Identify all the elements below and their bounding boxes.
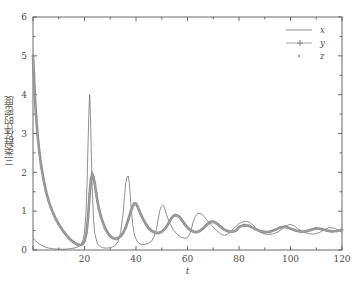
marker-dot-z [33, 74, 35, 76]
marker-dot-z [163, 229, 165, 231]
x-axis-label: t [186, 266, 190, 276]
marker-dot-z [321, 228, 323, 230]
marker-dot-z [34, 95, 36, 97]
marker-dot-z [223, 228, 225, 230]
marker-dot-z [120, 236, 122, 238]
marker-dot-z [236, 229, 238, 231]
marker-dot-z [68, 238, 70, 240]
marker-dot-z [207, 223, 209, 225]
marker-dot-z [336, 230, 338, 232]
marker-dot-z [331, 230, 333, 232]
marker-dot-z [112, 237, 114, 239]
marker-dot-z [102, 221, 104, 223]
legend-swatch-z [298, 55, 301, 58]
chart-figure: 三类群体的密度 204060801001200123456t xyz [0, 0, 356, 283]
marker-dot-z [130, 211, 132, 213]
marker-dot-z [117, 237, 119, 239]
marker-dot-z [284, 226, 286, 228]
marker-dot-z [148, 227, 150, 229]
marker-dot-z [151, 230, 153, 232]
marker-dot-z [125, 227, 127, 229]
legend-label-z: z [319, 51, 325, 61]
y-tick-label: 5 [21, 51, 27, 61]
marker-dot-z [48, 200, 50, 202]
marker-dot-z [100, 215, 102, 217]
marker-dot-z [233, 230, 235, 232]
marker-dot-z [181, 220, 183, 222]
x-tick-label: 40 [130, 254, 142, 264]
marker-dot-z [179, 217, 181, 219]
marker-dot-z [58, 224, 60, 226]
marker-dot-z [66, 235, 68, 237]
chart-legend: xyz [286, 25, 325, 61]
marker-dot-z [158, 232, 160, 234]
marker-dot-z [93, 177, 95, 179]
marker-dot-z [104, 228, 106, 230]
marker-dot-z [310, 229, 312, 231]
marker-dot-z [91, 174, 93, 176]
marker-dot-z [184, 223, 186, 225]
x-tick-label: 60 [182, 254, 194, 264]
marker-dot-z [60, 228, 62, 230]
marker-dot-z [76, 243, 78, 245]
marker-dot-z [42, 178, 44, 180]
plot-canvas: 204060801001200123456t xyz [0, 0, 356, 283]
marker-dot-z [53, 214, 55, 216]
marker-dot-z [95, 192, 97, 194]
legend-label-y: y [319, 38, 325, 48]
y-tick-label: 0 [21, 245, 27, 255]
marker-dot-z [192, 230, 194, 232]
marker-dot-z [173, 215, 175, 217]
marker-dot-z [132, 205, 134, 207]
marker-dot-z [202, 228, 204, 230]
x-tick-label: 80 [233, 254, 245, 264]
marker-dot-z [197, 231, 199, 233]
marker-dot-z [35, 116, 37, 118]
marker-dot-z [84, 241, 86, 243]
marker-dot-z [305, 230, 307, 232]
marker-dot-z [187, 227, 189, 229]
marker-dot-z [254, 228, 256, 230]
series-z [33, 57, 342, 245]
marker-dot-z [96, 201, 98, 203]
marker-dot-z [138, 210, 140, 212]
marker-dot-z [230, 231, 232, 233]
marker-dot-z [199, 230, 201, 232]
marker-dot-z [225, 230, 227, 232]
marker-dot-z [161, 231, 163, 233]
y-tick-label: 2 [21, 168, 27, 178]
marker-dot-z [205, 225, 207, 227]
marker-dot-z [145, 224, 147, 226]
marker-dot-z [78, 244, 80, 246]
marker-dot-z [140, 215, 142, 217]
marker-dot-z [238, 227, 240, 229]
series-y [33, 56, 342, 245]
plot-frame [33, 17, 342, 250]
marker-dot-z [87, 216, 89, 218]
marker-dot-z [40, 167, 42, 169]
y-tick-label: 6 [21, 12, 27, 22]
marker-dot-z [115, 238, 117, 240]
marker-dot-z [81, 244, 83, 246]
marker-dot-z [269, 231, 271, 233]
marker-dot-z [194, 231, 196, 233]
data-series-group [31, 54, 343, 249]
marker-dot-z [89, 194, 91, 196]
marker-dot-z [166, 225, 168, 227]
marker-dot-z [290, 228, 292, 230]
marker-dot-z [218, 224, 220, 226]
marker-dot-z [295, 230, 297, 232]
marker-dot-z [171, 218, 173, 220]
marker-dot-z [45, 191, 47, 193]
marker-dot-z [177, 215, 179, 217]
marker-dot-z [341, 229, 343, 231]
marker-dot-z [279, 227, 281, 229]
marker-dot-z [143, 220, 145, 222]
marker-dot-z [135, 203, 137, 205]
axes-group: 204060801001200123456t [21, 12, 351, 276]
marker-dot-z [107, 232, 109, 234]
marker-dot-z [134, 203, 136, 205]
marker-dot-z [212, 221, 214, 223]
marker-dot-z [300, 231, 302, 233]
marker-dot-z [274, 229, 276, 231]
